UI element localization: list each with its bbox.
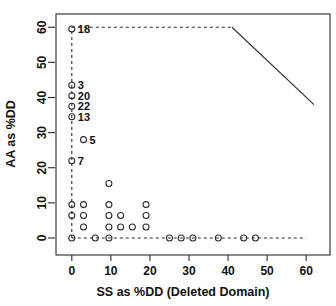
y-tick-label: 60 [35, 20, 49, 34]
y-tick-label: 50 [35, 55, 49, 69]
data-point [143, 213, 149, 219]
y-axis-ticks: 0102030405060 [35, 20, 55, 241]
data-point [106, 224, 112, 230]
data-point [143, 224, 149, 230]
x-tick-label: 40 [221, 264, 235, 278]
x-tick-label: 0 [68, 264, 75, 278]
data-point [106, 181, 112, 187]
data-point [118, 213, 124, 219]
data-point [106, 213, 112, 219]
data-point [81, 202, 87, 208]
y-tick-label: 20 [35, 161, 49, 175]
x-axis-title: SS as %DD (Deleted Domain) [97, 285, 270, 299]
plot-canvas: 0102030405060 0102030405060 18320221357 … [0, 0, 336, 306]
data-point [129, 224, 135, 230]
y-tick-label: 0 [35, 234, 49, 241]
x-axis-ticks: 0102030405060 [68, 255, 313, 278]
y-tick-label: 10 [35, 196, 49, 210]
x-tick-label: 50 [260, 264, 274, 278]
point-labels-layer: 18320221357 [78, 23, 96, 167]
data-point [118, 224, 124, 230]
data-point [106, 202, 112, 208]
plot-frame [56, 14, 330, 255]
data-point [81, 213, 87, 219]
data-points-layer [69, 26, 259, 241]
upper-bound-diagonal [232, 27, 314, 104]
data-point [81, 224, 87, 230]
data-point [81, 137, 87, 143]
y-tick-label: 30 [35, 126, 49, 140]
data-point-label: 7 [78, 155, 84, 167]
data-point-label: 18 [78, 23, 90, 35]
y-tick-label: 40 [35, 91, 49, 105]
x-tick-label: 10 [104, 264, 118, 278]
x-tick-label: 30 [182, 264, 196, 278]
y-axis-title: AA as %DD [4, 100, 18, 168]
data-point-label: 5 [90, 134, 96, 146]
data-point [143, 202, 149, 208]
x-tick-label: 60 [300, 264, 314, 278]
reference-lines [72, 27, 314, 238]
scatter-plot-figure: 0102030405060 0102030405060 18320221357 … [0, 0, 336, 306]
x-tick-label: 20 [143, 264, 157, 278]
data-point-label: 13 [78, 111, 90, 123]
plot-border [56, 14, 330, 255]
